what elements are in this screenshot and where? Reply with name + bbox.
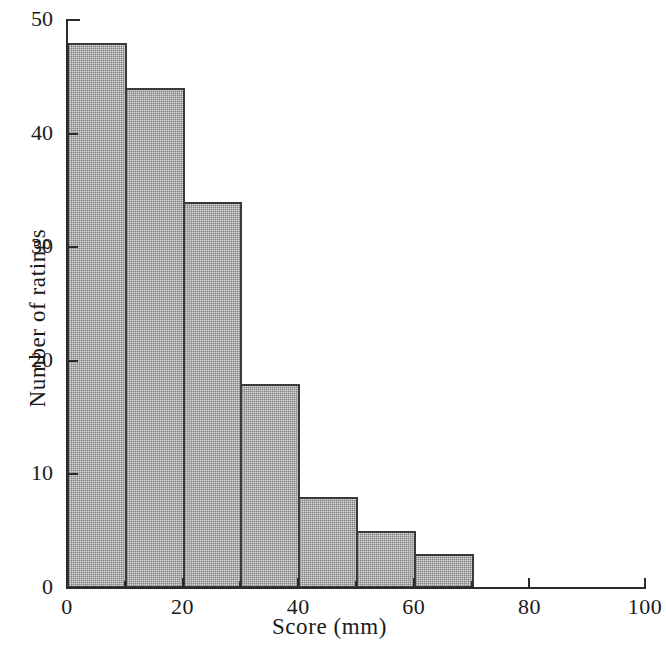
y-tick-major [66, 133, 78, 135]
y-tick-label: 0 [0, 574, 53, 600]
x-tick-minor [124, 581, 126, 589]
histogram-bar [183, 202, 243, 588]
x-tick-minor [471, 581, 473, 589]
x-tick-major [644, 578, 646, 589]
histogram-bar [356, 531, 416, 588]
histogram-bar [67, 43, 127, 588]
x-tick-major [413, 578, 415, 589]
y-axis-line [66, 20, 68, 589]
y-tick-major [66, 473, 78, 475]
x-tick-major [182, 578, 184, 589]
histogram-bar [240, 384, 300, 588]
y-axis-title: Number of ratings [25, 168, 51, 468]
x-axis-title: Score (mm) [0, 614, 659, 640]
y-tick-major [66, 246, 78, 248]
y-tick-label: 40 [0, 120, 53, 146]
histogram-bar [414, 554, 474, 588]
histogram-bar [125, 88, 185, 588]
y-tick-label: 50 [0, 6, 53, 32]
y-tick-major [66, 19, 80, 21]
histogram-bar [298, 497, 358, 588]
y-tick-major [66, 587, 78, 589]
x-tick-minor [355, 581, 357, 589]
x-tick-major [528, 578, 530, 589]
x-tick-major [297, 578, 299, 589]
y-tick-major [66, 360, 78, 362]
plot-area [67, 20, 645, 588]
x-tick-minor [239, 581, 241, 589]
